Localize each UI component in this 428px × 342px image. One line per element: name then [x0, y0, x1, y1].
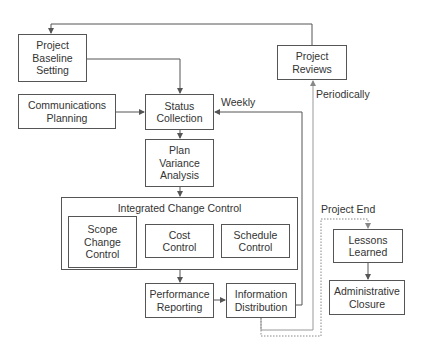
- node-lessons-learned: Lessons Learned: [333, 229, 403, 263]
- node-cost-control: Cost Control: [145, 224, 214, 258]
- node-administrative-closure: Administrative Closure: [329, 280, 405, 315]
- node-project-baseline-setting: Project Baseline Setting: [18, 34, 87, 82]
- node-project-reviews: Project Reviews: [277, 45, 347, 80]
- edge-label-project-end: Project End: [321, 203, 375, 215]
- node-status-collection: Status Collection: [145, 94, 214, 130]
- node-communications-planning: Communications Planning: [18, 94, 116, 129]
- node-information-distribution: Information Distribution: [226, 283, 296, 318]
- edge-label-weekly: Weekly: [221, 96, 255, 108]
- node-scope-change-control: Scope Change Control: [68, 216, 137, 268]
- edge-label-periodically: Periodically: [316, 88, 370, 100]
- node-schedule-control: Schedule Control: [221, 224, 290, 258]
- node-performance-reporting: Performance Reporting: [145, 283, 214, 318]
- group-title: Integrated Change Control: [62, 202, 297, 214]
- node-plan-variance-analysis: Plan Variance Analysis: [145, 139, 214, 187]
